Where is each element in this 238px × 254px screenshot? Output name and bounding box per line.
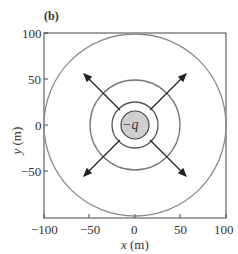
xtick-0: 0 — [131, 223, 138, 236]
x-axis-label: x (m) — [121, 238, 149, 251]
y-axis-label: y (m) — [10, 115, 23, 155]
xtick-100: 100 — [214, 223, 234, 236]
xtick-neg50: −50 — [80, 223, 100, 236]
panel-label: (b) — [44, 10, 59, 22]
xtick-neg100: −100 — [31, 223, 58, 236]
ytick-neg50: −50 — [21, 165, 41, 178]
charge-label: −q — [122, 118, 138, 132]
ytick-50: 50 — [28, 73, 41, 86]
ytick-100: 100 — [22, 27, 42, 40]
ytick-0: 0 — [35, 119, 42, 132]
xtick-50: 50 — [174, 223, 187, 236]
